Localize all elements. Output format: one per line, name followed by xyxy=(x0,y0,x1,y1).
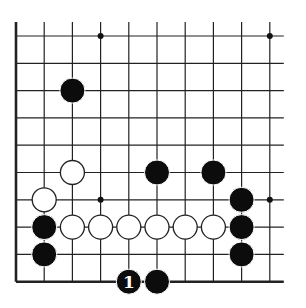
white-stone xyxy=(117,215,141,239)
white-stone-icon xyxy=(32,188,56,212)
white-stone xyxy=(145,215,169,239)
white-stone xyxy=(173,215,197,239)
white-stone-icon xyxy=(145,215,169,239)
black-stone-icon xyxy=(229,215,254,240)
black-stone-icon xyxy=(145,269,170,294)
move-number-label: 1 xyxy=(123,272,135,292)
white-stone xyxy=(60,161,84,185)
white-stone xyxy=(32,188,56,212)
go-board: 1 xyxy=(0,0,306,308)
white-stone xyxy=(201,215,225,239)
black-stone-icon xyxy=(229,187,254,212)
stones-layer: 1 xyxy=(32,78,254,294)
black-stone-icon xyxy=(32,242,57,267)
black-stone-icon xyxy=(60,78,85,103)
black-stone xyxy=(60,78,85,103)
white-stone-icon xyxy=(89,215,113,239)
star-point-icon xyxy=(98,197,104,203)
black-stone xyxy=(229,242,254,267)
white-stone-icon xyxy=(173,215,197,239)
white-stone-icon xyxy=(201,215,225,239)
black-stone xyxy=(32,215,57,240)
black-stone-icon xyxy=(32,215,57,240)
black-stone xyxy=(201,160,226,185)
white-stone xyxy=(60,215,84,239)
star-point-icon xyxy=(98,33,104,39)
white-stone-icon xyxy=(60,215,84,239)
black-stone xyxy=(229,215,254,240)
black-stone-icon xyxy=(201,160,226,185)
white-stone xyxy=(89,215,113,239)
black-stone-icon xyxy=(145,160,170,185)
black-stone xyxy=(145,269,170,294)
black-stone-icon xyxy=(229,242,254,267)
star-point-icon xyxy=(267,197,273,203)
black-stone: 1 xyxy=(116,269,141,294)
black-stone xyxy=(145,160,170,185)
black-stone xyxy=(229,187,254,212)
white-stone-icon xyxy=(117,215,141,239)
white-stone-icon xyxy=(60,161,84,185)
black-stone xyxy=(32,242,57,267)
star-point-icon xyxy=(267,33,273,39)
